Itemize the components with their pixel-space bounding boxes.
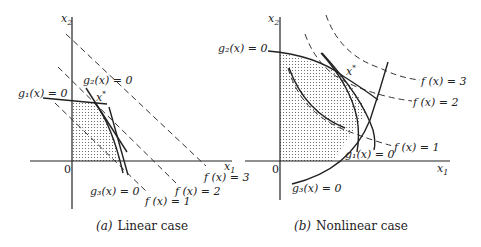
label-g3: g₃(x) = 0 — [292, 182, 341, 195]
label-f1: f (x) = 1 — [393, 141, 440, 154]
x1-axis-label: x1 — [437, 162, 448, 177]
label-g3: g₃(x) = 0 — [90, 185, 139, 198]
label-g1: g₁(x) = 0 — [18, 87, 67, 100]
origin-label: 0 — [64, 163, 71, 176]
label-f2: f (x) = 2 — [174, 185, 221, 198]
figure: x2 x1 0 x* g₁(x) = 0 g₂(x) = 0 g₃(x) = 0… — [0, 0, 481, 247]
panel-linear: x2 x1 0 x* g₁(x) = 0 g₂(x) = 0 g₃(x) = 0… — [18, 12, 250, 233]
contour-f3 — [326, 15, 420, 80]
x2-axis-label: x2 — [61, 12, 72, 27]
optimum-label: x* — [96, 90, 106, 104]
label-f3: f (x) = 3 — [203, 171, 250, 184]
label-f3: f (x) = 3 — [420, 75, 467, 88]
label-g1: g₁(x) = 0 — [345, 148, 394, 161]
caption-b: (b)Nonlinear case — [294, 219, 408, 233]
label-g2: g₂(x) = 0 — [218, 42, 267, 55]
x2-axis-label: x2 — [268, 12, 279, 27]
origin-label: 0 — [272, 163, 279, 176]
label-g2: g₂(x) = 0 — [83, 74, 132, 87]
label-f2: f (x) = 2 — [412, 96, 459, 109]
panel-nonlinear: x2 x1 0 x* g₁(x) = 0 g₂(x) = 0 g₃(x) = 0… — [218, 12, 467, 233]
optimum-label: x* — [346, 64, 356, 78]
caption-a: (a)Linear case — [96, 219, 188, 233]
